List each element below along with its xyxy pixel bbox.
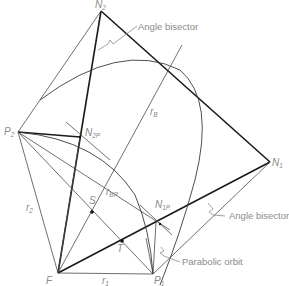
label-n2: N2 (95, 0, 106, 11)
edge-f-p1 (58, 273, 153, 274)
label-t: T (117, 243, 124, 254)
label-f: F (46, 275, 53, 286)
point-n1p (159, 223, 161, 225)
annotation-angle-bisector-right: Angle bisector (229, 210, 289, 221)
point-n2p (79, 136, 81, 138)
label-n1p: N1P (155, 199, 171, 211)
label-r2: r2 (26, 202, 33, 214)
label-p2: P2 (4, 126, 15, 138)
label-n2p: N2P (85, 127, 101, 139)
label-rbp: rBP (106, 186, 119, 198)
leader-angle-bisector-right (208, 203, 225, 216)
point-s (90, 210, 94, 214)
line-p1-n1p (153, 222, 156, 274)
label-n1: N1 (272, 157, 283, 169)
label-rb: rB (150, 106, 158, 118)
annotation-parabolic-orbit: Parabolic orbit (182, 256, 243, 267)
orbit-geometry-diagram: N2 N1 P2 P1 F N2P N1P S T r1 r2 rB rBP A… (0, 0, 289, 286)
label-r1: r1 (102, 275, 109, 286)
annotation-angle-bisector-top: Angle bisector (138, 21, 198, 32)
label-s: S (89, 195, 96, 206)
